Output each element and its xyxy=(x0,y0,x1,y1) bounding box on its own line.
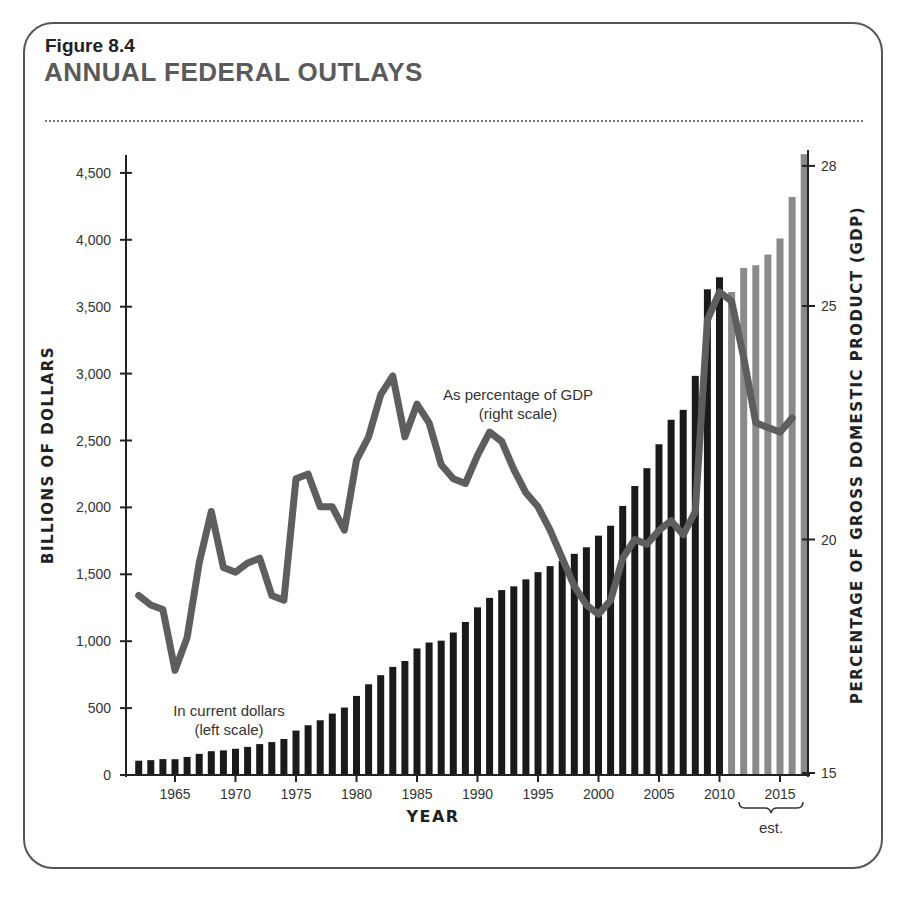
x-tick-label: 1980 xyxy=(341,786,372,802)
bar xyxy=(414,648,421,775)
bar xyxy=(631,486,638,775)
annotation-left-scale: (left scale) xyxy=(194,721,263,738)
bar xyxy=(716,277,723,775)
bar xyxy=(268,742,275,775)
x-tick-label: 1995 xyxy=(522,786,553,802)
bar xyxy=(510,586,517,775)
left-tick-label: 2,000 xyxy=(76,499,111,515)
left-tick-label: 1,500 xyxy=(76,566,111,582)
bar xyxy=(680,410,687,775)
bar xyxy=(656,444,663,775)
bar xyxy=(438,641,445,775)
bar xyxy=(232,749,239,775)
bar xyxy=(777,238,784,775)
left-tick-label: 3,000 xyxy=(76,366,111,382)
x-tick-label: 1970 xyxy=(220,786,251,802)
x-tick-label: 1985 xyxy=(401,786,432,802)
bar xyxy=(619,506,626,775)
x-tick-label: 2000 xyxy=(583,786,614,802)
bar xyxy=(184,757,191,775)
right-tick-label: 28 xyxy=(821,158,837,174)
x-tick-label: 2010 xyxy=(704,786,735,802)
bar xyxy=(595,536,602,775)
left-tick-label: 3,500 xyxy=(76,299,111,315)
bar xyxy=(486,598,493,775)
bar xyxy=(208,751,215,775)
bar xyxy=(474,607,481,775)
bar xyxy=(244,747,251,775)
bar xyxy=(607,526,614,775)
bar xyxy=(196,754,203,775)
bar xyxy=(728,292,735,775)
bar xyxy=(172,759,179,775)
bar xyxy=(377,675,384,775)
x-axis-title: YEAR xyxy=(405,807,459,826)
x-tick-label: 2005 xyxy=(643,786,674,802)
x-axis: 1965197019751980198519901995200020052010… xyxy=(124,775,810,802)
bar xyxy=(547,566,554,775)
bar xyxy=(159,759,166,775)
bar xyxy=(522,579,529,775)
right-tick-label: 15 xyxy=(821,765,837,781)
bar xyxy=(341,708,348,775)
bar xyxy=(135,761,142,775)
left-axis-title: BILLIONS OF DOLLARS xyxy=(39,346,57,564)
left-tick-label: 0 xyxy=(103,767,111,783)
estimate-bracket xyxy=(739,802,803,813)
right-tick-label: 20 xyxy=(821,532,837,548)
bar xyxy=(498,590,505,775)
x-tick-label: 1975 xyxy=(280,786,311,802)
bar xyxy=(752,265,759,775)
right-axis-title: PERCENTAGE OF GROSS DOMESTIC PRODUCT (GD… xyxy=(848,206,866,704)
right-tick-label: 25 xyxy=(821,298,837,314)
bar xyxy=(317,720,324,775)
left-tick-label: 4,500 xyxy=(76,165,111,181)
bar xyxy=(801,154,808,775)
left-y-axis: 05001,0001,5002,0002,5003,0003,5004,0004… xyxy=(76,155,132,783)
bar xyxy=(535,572,542,775)
bar xyxy=(147,760,154,775)
bar xyxy=(365,684,372,775)
bar xyxy=(401,661,408,775)
left-tick-label: 2,500 xyxy=(76,433,111,449)
bar xyxy=(643,468,650,775)
bar xyxy=(305,725,312,775)
bar xyxy=(462,622,469,775)
bar xyxy=(450,633,457,775)
x-tick-label: 1965 xyxy=(159,786,190,802)
x-tick-label: 2015 xyxy=(764,786,795,802)
bar xyxy=(353,696,360,775)
annotation-estimate: est. xyxy=(759,819,783,836)
bar xyxy=(426,643,433,775)
bar xyxy=(764,255,771,775)
bar xyxy=(389,667,396,775)
bar xyxy=(668,420,675,775)
bar xyxy=(329,714,336,775)
left-tick-label: 4,000 xyxy=(76,232,111,248)
annotation-current-dollars: In current dollars xyxy=(173,702,285,719)
chart: 05001,0001,5002,0002,5003,0003,5004,0004… xyxy=(0,0,908,906)
bar xyxy=(559,561,566,775)
right-y-axis: 15202528 xyxy=(802,150,837,781)
bar xyxy=(220,750,227,775)
bar xyxy=(789,197,796,775)
left-tick-label: 1,000 xyxy=(76,633,111,649)
annotation-gdp-percentage: As percentage of GDP xyxy=(443,386,593,403)
bar xyxy=(280,739,287,775)
left-tick-label: 500 xyxy=(88,700,112,716)
annotation-right-scale: (right scale) xyxy=(479,405,557,422)
bar xyxy=(583,547,590,775)
bar xyxy=(256,744,263,775)
bar xyxy=(293,731,300,775)
x-tick-label: 1990 xyxy=(462,786,493,802)
